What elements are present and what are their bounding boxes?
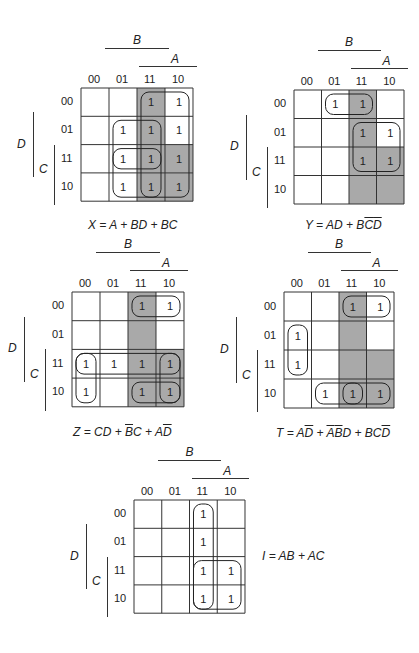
minterm-one: 1 <box>339 301 367 313</box>
minterm-one: 1 <box>109 124 137 136</box>
row-header: 01 <box>52 328 64 340</box>
c-variable-bar <box>267 147 268 208</box>
column-header: 00 <box>88 73 100 85</box>
minterm-one: 1 <box>128 300 156 312</box>
equation-x: X = A + BD + BC <box>88 218 177 232</box>
a-variable-bar <box>139 66 197 67</box>
minterm-one: 1 <box>137 124 165 136</box>
kmap-x: 111111111110001111000011110BADC <box>81 88 193 201</box>
row-header: 10 <box>264 387 276 399</box>
minterm-one: 1 <box>165 153 193 165</box>
c-variable-label: C <box>39 163 48 175</box>
equation-z: Z = CD + BC + AD <box>73 425 172 439</box>
c-variable-bar <box>54 145 55 206</box>
column-header: 10 <box>383 75 395 87</box>
row-header: 10 <box>52 385 64 397</box>
minterm-one: 1 <box>367 388 395 400</box>
column-header: 10 <box>163 277 175 289</box>
equation-term: D + BC <box>343 426 382 440</box>
row-header: 00 <box>114 507 126 519</box>
row-header: 10 <box>61 180 73 192</box>
minterm-one: 1 <box>137 96 165 108</box>
minterm-one: 1 <box>165 181 193 193</box>
d-variable-label: D <box>70 550 79 562</box>
complemented-term: B <box>335 426 343 440</box>
b-variable-label: B <box>186 446 194 458</box>
row-header: 01 <box>114 535 126 547</box>
column-header: 11 <box>356 75 367 87</box>
minterm-one: 1 <box>190 508 218 520</box>
minterm-one: 1 <box>349 127 377 139</box>
d-variable-label: D <box>8 342 17 354</box>
c-variable-label: C <box>252 166 261 178</box>
column-header: 01 <box>328 75 340 87</box>
minterm-one: 1 <box>190 565 218 577</box>
a-variable-bar <box>192 478 250 479</box>
minterm-one: 1 <box>72 386 100 398</box>
row-header: 00 <box>61 95 73 107</box>
kmap-t: 11111110001111000011110BADC <box>284 292 394 408</box>
equation-term: Z = CD + <box>73 425 125 439</box>
b-variable-bar <box>96 252 160 253</box>
minterm-one: 1 <box>377 155 405 167</box>
complemented-term: D <box>305 426 314 440</box>
b-variable-bar <box>158 460 222 461</box>
minterm-one: 1 <box>156 358 184 370</box>
minterm-one: 1 <box>190 536 218 548</box>
kmap-z: 1111111110001111000011110BADC <box>72 292 184 407</box>
b-variable-label: B <box>133 34 141 46</box>
equation-term: X = A + BD + BC <box>88 218 177 232</box>
complemented-term: D <box>382 426 391 440</box>
d-variable-label: D <box>17 138 26 150</box>
minterm-one: 1 <box>377 127 405 139</box>
row-header: 11 <box>61 152 72 164</box>
minterm-one: 1 <box>190 593 218 605</box>
b-variable-label: B <box>124 238 132 250</box>
column-header: 00 <box>141 485 153 497</box>
equation-term: C + A <box>133 425 163 439</box>
a-variable-label: A <box>171 53 179 65</box>
row-header: 00 <box>274 97 286 109</box>
minterm-one: 1 <box>284 330 312 342</box>
minterm-one: 1 <box>137 153 165 165</box>
equation-t: T = AD + ABD + BCD <box>276 426 390 440</box>
d-variable-bar <box>236 317 237 383</box>
a-variable-bar <box>130 270 188 271</box>
minterm-one: 1 <box>217 593 245 605</box>
d-variable-bar <box>246 115 247 180</box>
d-variable-bar <box>86 524 87 589</box>
column-header: 01 <box>116 73 128 85</box>
column-header: 01 <box>107 277 119 289</box>
minterm-one: 1 <box>165 124 193 136</box>
equation-i: I = AB + AC <box>262 549 324 563</box>
minterm-one: 1 <box>109 181 137 193</box>
complemented-term: A <box>326 426 334 440</box>
row-header: 11 <box>264 358 275 370</box>
column-header: 10 <box>224 485 236 497</box>
c-variable-bar <box>257 350 258 412</box>
equation-y: Y = AD + BCD <box>305 218 382 232</box>
c-variable-bar <box>45 349 46 410</box>
equation-term: Y = AD + B <box>305 218 364 232</box>
column-header: 11 <box>346 277 357 289</box>
row-header: 01 <box>264 329 276 341</box>
row-header: 01 <box>61 123 73 135</box>
minterm-one: 1 <box>349 98 377 110</box>
d-variable-bar <box>24 317 25 382</box>
b-variable-label: B <box>335 238 343 250</box>
minterm-one: 1 <box>100 358 128 370</box>
a-variable-label: A <box>383 55 391 67</box>
minterm-one: 1 <box>137 181 165 193</box>
a-variable-bar <box>341 270 398 271</box>
minterm-one: 1 <box>349 155 377 167</box>
column-header: 00 <box>291 277 303 289</box>
minterm-one: 1 <box>165 96 193 108</box>
column-header: 10 <box>373 277 385 289</box>
complemented-term: C <box>364 218 373 232</box>
equation-term: I = AB + AC <box>262 549 324 563</box>
kmap-i: 1111110001111000011110BADC <box>134 500 245 613</box>
minterm-one: 1 <box>367 301 395 313</box>
c-variable-bar <box>107 557 108 618</box>
column-header: 01 <box>169 485 181 497</box>
minterm-one: 1 <box>72 358 100 370</box>
